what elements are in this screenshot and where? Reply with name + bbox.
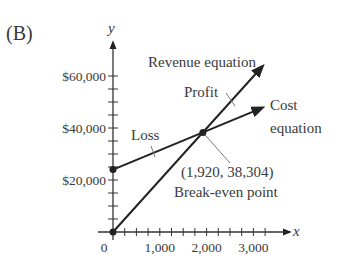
profit-label: Profit — [184, 84, 219, 100]
break-even-chart: (B) 01,0002,0003,000$20,000$40,000$60,00… — [0, 0, 354, 277]
x-tick-label: 2,000 — [191, 240, 222, 255]
loss-label: Loss — [131, 127, 160, 143]
annotations: y x Revenue equation Cost equation Profi… — [106, 20, 322, 239]
revenue-start-point — [110, 229, 117, 236]
x-tick-label: 1,000 — [145, 240, 176, 255]
tick-labels: 01,0002,0003,000$20,000$40,000$60,000 — [62, 69, 269, 255]
cost-start-point — [110, 166, 117, 173]
cost-label: Cost — [270, 97, 298, 113]
x-axis-label: x — [292, 223, 300, 239]
break-even-point — [199, 129, 206, 136]
break-even-label: Break-even point — [174, 184, 279, 200]
panel-label: (B) — [6, 22, 33, 45]
break-even-coordinates: (1,920, 38,304) — [181, 164, 274, 181]
y-axis-label: y — [106, 20, 115, 36]
cost-equation-label: equation — [270, 120, 322, 136]
x-tick-label: 0 — [101, 240, 108, 255]
y-tick-label: $20,000 — [62, 173, 106, 188]
x-tick-label: 3,000 — [238, 240, 269, 255]
y-tick-label: $60,000 — [62, 69, 106, 84]
y-tick-label: $40,000 — [62, 121, 106, 136]
break-even-leader — [203, 132, 230, 163]
revenue-equation-label: Revenue equation — [148, 54, 256, 70]
